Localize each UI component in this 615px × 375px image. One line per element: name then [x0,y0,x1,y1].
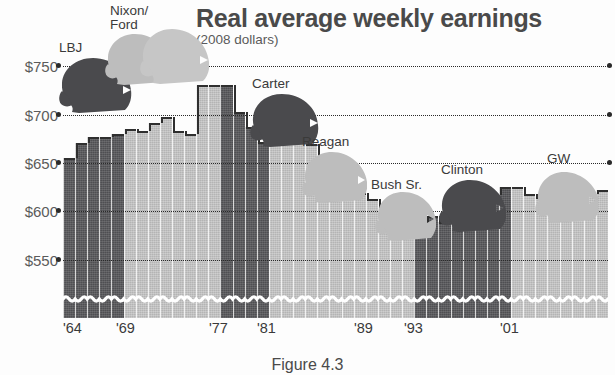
bar-top-edge [209,85,220,87]
bar-1973 [172,131,184,318]
title-block: Real average weekly earnings (2008 dolla… [196,6,542,47]
bar-step-riser [234,85,236,113]
bar-step-riser [149,123,151,130]
gridline-700 [63,115,608,116]
y-tick-label-700: $700 [25,107,58,124]
bar-1964 [63,158,75,318]
bar-1980 [257,142,269,318]
bar-1974 [184,134,196,318]
gridline-550 [63,260,608,261]
reagan-head-icon [301,150,367,206]
x-tick-label-64: '64 [63,320,82,336]
x-tick-label-69: '69 [116,320,135,336]
bar-2001 [511,187,523,318]
gw-label: GW [547,152,570,166]
bar-step-riser [112,134,114,137]
x-tick-label-93: '93 [404,320,423,336]
bar-top-edge [137,131,148,133]
bar-top-edge [221,85,232,87]
bar-1966 [87,137,99,318]
y-tick-dot-600 [56,208,61,213]
bar-1996 [451,222,463,318]
bar-1965 [75,143,87,318]
x-tick-label-89: '89 [354,320,373,336]
clinton-head-icon [438,178,506,234]
gridline-600 [63,211,608,212]
y-tick-dot-650 [56,160,61,165]
bar-top-edge [173,131,184,133]
clinton-label: Clinton [441,163,483,177]
bar-top-edge [100,137,111,139]
bar-top-edge [185,134,196,136]
bar-step-riser [524,187,526,194]
bar-top-edge [64,158,75,160]
bar-step-riser [76,143,78,158]
bar-1977 [220,85,232,318]
bush-sr-label: Bush Sr. [371,178,422,192]
y-tick-label-550: $550 [25,252,58,269]
x-tick-label-77: '77 [209,320,228,336]
bar-1975 [196,85,208,318]
figure-caption: Figure 4.3 [0,356,615,374]
carter-label: Carter [252,77,290,91]
chart-subtitle: (2008 dollars) [196,32,542,47]
bar-1972 [160,117,172,318]
bar-top-edge [512,187,523,189]
y-tick-dot-550 [56,257,61,262]
x-tick-label-81: '81 [257,320,276,336]
bush-sr-head-icon [374,190,436,244]
bar-1982 [281,131,293,318]
bar-1988 [354,193,366,318]
bar-step-riser [137,129,139,131]
bar-1995 [438,222,450,318]
bar-1968 [111,134,123,318]
chart-figure: Real average weekly earnings (2008 dolla… [0,0,615,375]
bar-1969 [124,129,136,318]
bar-step-riser [367,193,369,199]
lbj-label: LBJ [59,41,82,55]
bar-step-riser [88,137,90,143]
bar-step-riser [197,85,199,134]
y-axis: $750 $700 $650 $600 $550 [0,60,58,318]
y-tick-label-600: $600 [25,203,58,220]
bar-step-riser [161,117,163,123]
bar-1967 [99,137,111,318]
bar-step-riser [173,117,175,130]
bar-1981 [269,142,281,318]
y-tick-label-650: $650 [25,155,58,172]
nixon-ford-label: Nixon/ Ford [110,4,148,32]
bar-1970 [136,131,148,318]
bar-1978 [233,112,245,318]
gw-head-icon [534,170,598,226]
x-tick-label-01: '01 [500,320,519,336]
reagan-label: Reagan [302,135,349,149]
bar-step-riser [185,131,187,134]
bar-step-riser [125,129,127,134]
y-tick-label-750: $750 [25,58,58,75]
bar-1979 [245,127,257,318]
chart-title: Real average weekly earnings [196,6,542,31]
bar-1971 [148,123,160,318]
bar-1976 [208,85,220,318]
ford-head-icon [139,27,209,89]
